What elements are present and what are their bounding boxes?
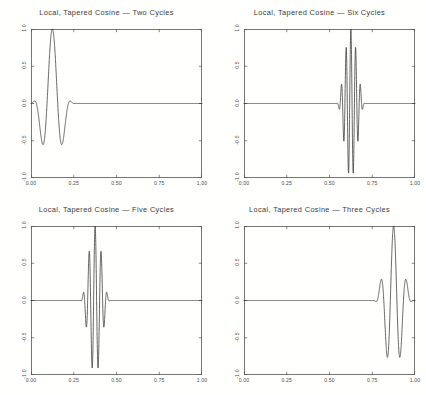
x-tick-label: 1.00 [197, 377, 208, 383]
x-tick-label: 0.50 [324, 377, 335, 383]
x-axis-tick-labels: 0.000.250.500.751.00 [31, 180, 202, 190]
plot-svg [31, 29, 202, 178]
x-tick-label: 0.50 [111, 180, 122, 186]
y-tick-label: 0.0 [231, 100, 243, 106]
x-tick-label: 0.75 [154, 377, 165, 383]
panel-title: Local, Tapered Cosine — Three Cycles [213, 205, 426, 214]
x-tick-label: 0.25 [281, 377, 292, 383]
panel-title: Local, Tapered Cosine — Five Cycles [0, 205, 213, 214]
panel-two-cycles: Local, Tapered Cosine — Two Cycles 0.000… [0, 0, 213, 197]
y-tick-label: 1.0 [18, 25, 30, 31]
x-axis-tick-labels: 0.000.250.500.751.00 [244, 180, 415, 190]
y-tick-label: 0.5 [231, 62, 243, 68]
x-tick-label: 0.25 [281, 180, 292, 186]
y-tick-label: -1.0 [18, 371, 30, 377]
panel-title: Local, Tapered Cosine — Six Cycles [213, 8, 426, 17]
x-tick-label: 0.25 [68, 377, 79, 383]
plot-svg [31, 226, 202, 375]
x-tick-label: 0.75 [367, 180, 378, 186]
x-tick-label: 0.50 [111, 377, 122, 383]
x-tick-label: 0.75 [367, 377, 378, 383]
y-tick-label: 0.0 [18, 297, 30, 303]
x-axis-tick-labels: 0.000.250.500.751.00 [31, 377, 202, 387]
x-tick-label: 0.25 [68, 180, 79, 186]
y-tick-label: -0.5 [231, 137, 243, 143]
y-axis-tick-labels: -1.0-0.50.00.51.0 [231, 29, 243, 178]
x-tick-label: 0.00 [239, 180, 250, 186]
x-tick-label: 0.00 [26, 377, 37, 383]
y-axis-tick-labels: -1.0-0.50.00.51.0 [18, 29, 30, 178]
y-tick-label: -1.0 [231, 174, 243, 180]
y-tick-label: 1.0 [231, 222, 243, 228]
x-tick-label: 0.75 [154, 180, 165, 186]
x-tick-label: 0.50 [324, 180, 335, 186]
x-tick-label: 1.00 [197, 180, 208, 186]
plot-svg [244, 29, 415, 178]
plot-svg [244, 226, 415, 375]
y-tick-label: 1.0 [18, 222, 30, 228]
x-tick-label: 0.00 [26, 180, 37, 186]
y-tick-label: -1.0 [231, 371, 243, 377]
y-tick-label: 0.5 [18, 259, 30, 265]
y-tick-label: -0.5 [18, 334, 30, 340]
y-tick-label: 0.0 [231, 297, 243, 303]
y-tick-label: 0.0 [18, 100, 30, 106]
plot-area [244, 226, 415, 375]
x-tick-label: 1.00 [410, 180, 421, 186]
y-axis-tick-labels: -1.0-0.50.00.51.0 [18, 226, 30, 375]
plot-area [31, 29, 202, 178]
y-tick-label: -0.5 [18, 137, 30, 143]
y-tick-label: 0.5 [231, 259, 243, 265]
panel-title: Local, Tapered Cosine — Two Cycles [0, 8, 213, 17]
y-axis-tick-labels: -1.0-0.50.00.51.0 [231, 226, 243, 375]
y-tick-label: 1.0 [231, 25, 243, 31]
y-tick-label: 0.5 [18, 62, 30, 68]
plot-area [244, 29, 415, 178]
y-tick-label: -0.5 [231, 334, 243, 340]
x-tick-label: 1.00 [410, 377, 421, 383]
plot-area [31, 226, 202, 375]
panel-five-cycles: Local, Tapered Cosine — Five Cycles 0.00… [0, 197, 213, 394]
x-axis-tick-labels: 0.000.250.500.751.00 [244, 377, 415, 387]
y-tick-label: -1.0 [18, 174, 30, 180]
figure-canvas: Local, Tapered Cosine — Two Cycles 0.000… [0, 0, 426, 395]
x-tick-label: 0.00 [239, 377, 250, 383]
panel-three-cycles: Local, Tapered Cosine — Three Cycles 0.0… [213, 197, 426, 394]
panel-six-cycles: Local, Tapered Cosine — Six Cycles 0.000… [213, 0, 426, 197]
